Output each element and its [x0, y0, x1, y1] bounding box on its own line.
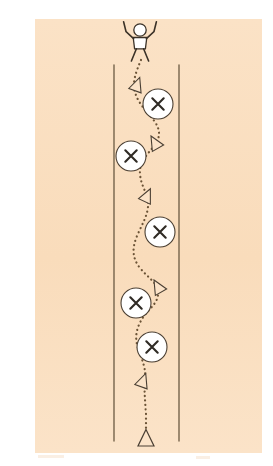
cone-markers — [116, 89, 175, 362]
cone-marker-4 — [121, 288, 151, 318]
direction-arrow-6 — [138, 430, 154, 447]
drill-diagram — [0, 0, 273, 466]
cone-marker-5 — [137, 332, 167, 362]
direction-arrows — [129, 75, 167, 446]
cone-marker-1 — [143, 89, 173, 119]
direction-arrow-1 — [129, 75, 146, 93]
cone-marker-3 — [145, 217, 175, 247]
direction-arrow-5 — [135, 371, 152, 389]
direction-arrow-2 — [145, 133, 163, 152]
cone-marker-2 — [116, 141, 146, 171]
direction-arrow-3 — [139, 186, 157, 204]
player-figure — [124, 22, 157, 61]
page-canvas — [0, 0, 273, 466]
